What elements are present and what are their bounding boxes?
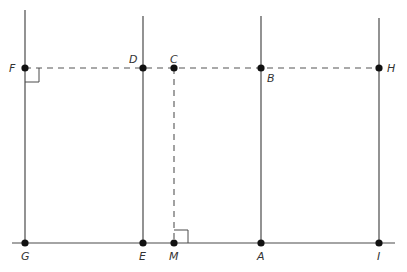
point-E [139, 239, 146, 246]
label-H: H [387, 62, 395, 75]
point-labels: FDCBHGEMAI [9, 53, 395, 263]
dashed-lines [25, 68, 379, 243]
point-G [21, 239, 28, 246]
points [21, 64, 382, 246]
label-D: D [129, 53, 137, 66]
point-F [21, 64, 28, 71]
geometry-diagram: FDCBHGEMAI [0, 0, 407, 272]
point-I [375, 239, 382, 246]
label-A: A [256, 250, 265, 263]
point-D [139, 64, 146, 71]
label-M: M [169, 250, 179, 263]
label-I: I [377, 250, 380, 263]
label-F: F [9, 62, 16, 75]
right-angle-markers [25, 68, 188, 243]
label-E: E [139, 250, 146, 263]
point-M [170, 239, 177, 246]
label-B: B [267, 72, 275, 85]
solid-lines [12, 10, 395, 243]
label-G: G [21, 250, 30, 263]
point-H [375, 64, 382, 71]
label-C: C [170, 53, 178, 66]
point-A [257, 239, 264, 246]
point-B [257, 64, 264, 71]
